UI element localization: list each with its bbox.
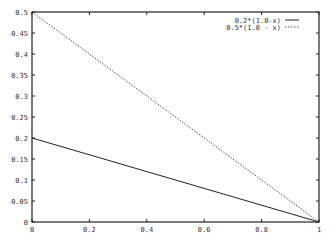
series-line xyxy=(32,138,319,222)
y-tick-label: 0.3 xyxy=(15,93,28,101)
chart: 00.050.10.150.20.250.30.350.40.450.500.2… xyxy=(0,0,330,243)
y-tick-label: 0 xyxy=(24,219,28,227)
y-tick-label: 0.35 xyxy=(11,72,28,80)
y-tick-label: 0.25 xyxy=(11,114,28,122)
x-tick-label: 0.4 xyxy=(140,226,153,234)
y-tick-label: 0.2 xyxy=(15,135,28,143)
x-tick-label: 0.6 xyxy=(198,226,211,234)
x-tick-label: 0.2 xyxy=(83,226,96,234)
y-tick-label: 0.5 xyxy=(15,9,28,17)
y-tick-label: 0.05 xyxy=(11,198,28,206)
series-line xyxy=(32,12,319,222)
y-tick-label: 0.1 xyxy=(15,177,28,185)
x-tick-label: 1 xyxy=(317,226,321,234)
x-tick-label: 0 xyxy=(30,226,34,234)
legend-label: 0.5*(1.0 - x) xyxy=(226,24,281,32)
y-tick-label: 0.45 xyxy=(11,30,28,38)
x-tick-label: 0.8 xyxy=(255,226,268,234)
y-tick-label: 0.4 xyxy=(15,51,28,59)
plot-area: 00.050.10.150.20.250.30.350.40.450.500.2… xyxy=(0,0,330,243)
y-tick-label: 0.15 xyxy=(11,156,28,164)
